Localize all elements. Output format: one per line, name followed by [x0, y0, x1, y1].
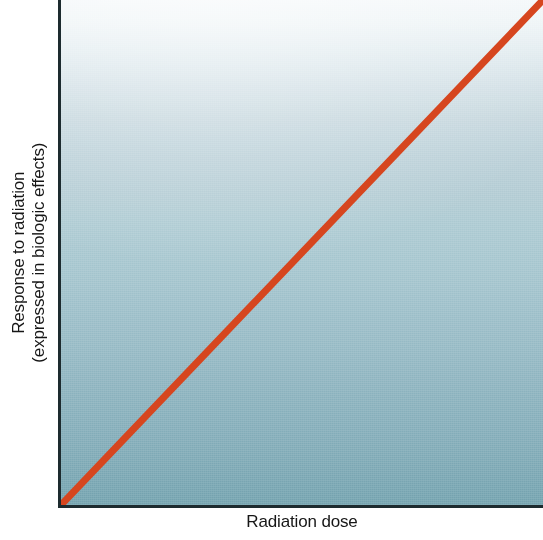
y-axis-label: Response to radiation (expressed in biol… [0, 0, 58, 506]
y-axis-line [58, 0, 61, 508]
y-axis-label-line-1: Response to radiation [9, 143, 29, 363]
x-axis-line [58, 505, 543, 508]
y-axis-label-line-2: (expressed in biologic effects) [29, 143, 49, 363]
dose-response-line [61, 0, 543, 505]
y-axis-label-text: Response to radiation (expressed in biol… [9, 143, 48, 363]
dose-response-figure: Response to radiation (expressed in biol… [0, 0, 543, 540]
x-axis-label: Radiation dose [61, 512, 543, 532]
data-line-svg [61, 0, 543, 505]
plot-area [61, 0, 543, 505]
